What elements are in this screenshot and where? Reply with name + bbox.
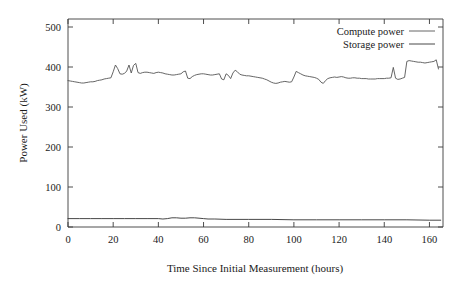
y-tick-label: 300 bbox=[45, 102, 61, 113]
y-axis-title: Power Used (kW) bbox=[17, 83, 30, 163]
x-tick-label: 0 bbox=[65, 234, 70, 245]
x-tick-label: 140 bbox=[376, 234, 392, 245]
legend-label-0: Compute power bbox=[337, 26, 405, 37]
x-axis-title: Time Since Initial Measurement (hours) bbox=[167, 262, 344, 275]
power-usage-line-chart: 0100200300400500 020406080100120140160 C… bbox=[0, 0, 463, 281]
x-tick-label: 60 bbox=[198, 234, 209, 245]
y-tick-label: 200 bbox=[45, 142, 61, 153]
legend-label-1: Storage power bbox=[343, 39, 404, 50]
x-tick-label: 160 bbox=[422, 234, 438, 245]
y-tick-label: 0 bbox=[56, 222, 61, 233]
y-tick-label: 400 bbox=[45, 62, 61, 73]
chart-container: 0100200300400500 020406080100120140160 C… bbox=[0, 0, 463, 281]
x-tick-label: 80 bbox=[243, 234, 254, 245]
x-tick-label: 20 bbox=[108, 234, 119, 245]
y-tick-label: 100 bbox=[45, 182, 61, 193]
x-tick-label: 120 bbox=[331, 234, 347, 245]
x-tick-label: 100 bbox=[286, 234, 302, 245]
y-tick-label: 500 bbox=[45, 22, 61, 33]
x-tick-label: 40 bbox=[153, 234, 164, 245]
